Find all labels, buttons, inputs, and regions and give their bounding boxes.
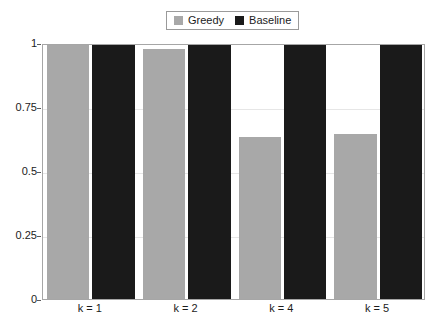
x-tick-label-1: k = 2 bbox=[174, 303, 198, 314]
x-tick-label-3: k = 5 bbox=[365, 303, 389, 314]
y-tick-label-0.25: 0.25 bbox=[3, 230, 37, 241]
y-tick-label-0.75: 0.75 bbox=[3, 102, 37, 113]
x-axis: k = 1k = 2k = 4k = 5 bbox=[42, 303, 425, 323]
y-tick-mark bbox=[37, 44, 41, 45]
y-tick-mark bbox=[37, 108, 41, 109]
y-tick-label-0.5: 0.5 bbox=[3, 166, 37, 177]
y-tick-mark bbox=[37, 172, 41, 173]
bar-baseline-0 bbox=[92, 44, 134, 299]
legend-entry-baseline: Baseline bbox=[235, 15, 291, 26]
legend-label-greedy: Greedy bbox=[188, 15, 224, 26]
y-tick-mark bbox=[37, 236, 41, 237]
bar-baseline-2 bbox=[284, 44, 326, 299]
plot-area bbox=[42, 44, 425, 300]
x-tick-label-2: k = 4 bbox=[269, 303, 293, 314]
bar-greedy-3 bbox=[334, 134, 376, 299]
y-tick-mark bbox=[37, 300, 41, 301]
legend-swatch-greedy-icon bbox=[174, 16, 183, 25]
y-tick-label-1: 1 bbox=[3, 38, 37, 49]
y-axis: 00.250.50.751 bbox=[0, 44, 37, 300]
bar-greedy-2 bbox=[239, 137, 281, 299]
bar-greedy-1 bbox=[143, 49, 185, 299]
y-tick-label-0: 0 bbox=[3, 294, 37, 305]
legend-entry-greedy: Greedy bbox=[174, 15, 224, 26]
legend-swatch-baseline-icon bbox=[235, 16, 244, 25]
bar-baseline-1 bbox=[188, 44, 230, 299]
legend-label-baseline: Baseline bbox=[249, 15, 291, 26]
x-tick-label-0: k = 1 bbox=[78, 303, 102, 314]
bar-baseline-3 bbox=[380, 44, 422, 299]
bar-greedy-0 bbox=[47, 44, 89, 299]
chart-legend: Greedy Baseline bbox=[166, 11, 299, 30]
bar-chart-figure: Greedy Baseline 00.250.50.751 k = 1k = 2… bbox=[0, 0, 445, 330]
